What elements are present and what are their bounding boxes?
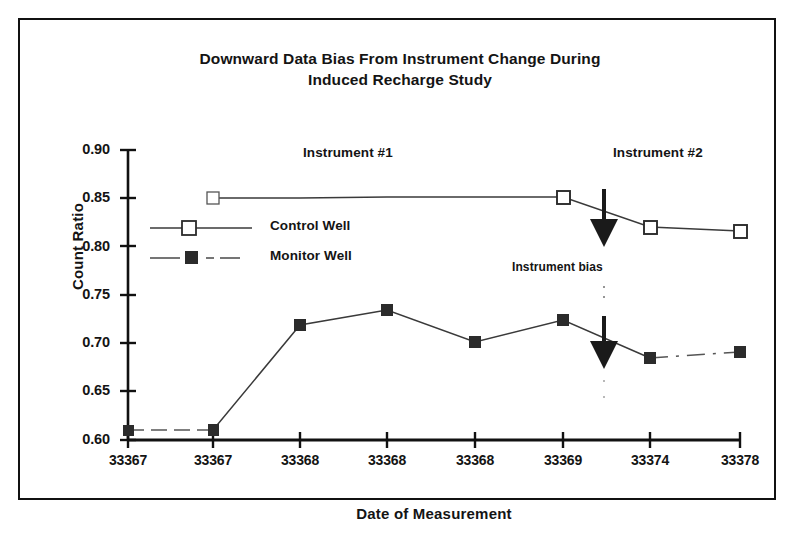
chart-figure: Downward Data Bias From Instrument Chang… <box>0 0 800 558</box>
y-axis <box>120 149 136 441</box>
data-point-monitor-7 <box>644 352 656 364</box>
lower-bias-arrow-icon <box>590 316 618 369</box>
series-control-well <box>207 191 747 238</box>
series-monitor-well <box>123 304 746 436</box>
data-point-monitor-8 <box>734 346 746 358</box>
data-point-control-7 <box>644 221 657 234</box>
data-point-monitor-4 <box>381 304 393 316</box>
data-point-control-8 <box>734 225 747 238</box>
data-point-control-6 <box>557 191 570 204</box>
data-point-control-2 <box>207 192 219 204</box>
data-point-monitor-1 <box>123 425 134 436</box>
data-point-monitor-2 <box>208 424 219 436</box>
data-point-monitor-3 <box>294 319 306 331</box>
plot-canvas <box>0 0 800 558</box>
upper-bias-arrow-icon <box>590 189 618 247</box>
data-point-monitor-5 <box>469 336 481 348</box>
data-point-monitor-6 <box>557 314 569 326</box>
x-axis <box>127 432 741 448</box>
